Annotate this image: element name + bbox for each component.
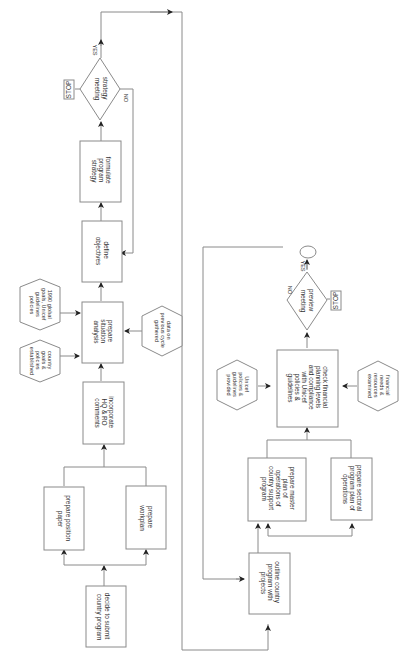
strategy-meeting-line-1: strategy xyxy=(101,77,109,101)
node-country-goals: country goals & policies established xyxy=(20,340,60,382)
preview-no-label: NO xyxy=(287,286,293,295)
objectives-line-1: define xyxy=(103,241,110,259)
situation-line-2: situation xyxy=(100,319,107,343)
node-preview-meeting: preview meeting YES NO STOP xyxy=(287,260,341,330)
master-plan-line-5: program xyxy=(260,477,268,501)
strategy-meeting-line-2: meeting xyxy=(93,78,101,101)
svg-text:prepare workplan: prepare workplan xyxy=(138,504,154,531)
situation-line-3: analysis xyxy=(92,320,100,343)
position-paper-line-2: paper xyxy=(56,511,64,528)
outline-line-3: projects xyxy=(259,572,267,594)
strategy-stop-label: STOP xyxy=(65,80,72,98)
check-line-4: with Unicef xyxy=(301,370,308,402)
svg-text:preview meeting: preview meeting xyxy=(299,289,315,313)
node-financial-needs: financial needs & resources examined xyxy=(358,361,398,411)
node-check-financial: check financial planning levels and comp… xyxy=(277,350,338,427)
node-global-goals: 1990 global goals, Unicef guidelines pol… xyxy=(20,279,60,330)
flowchart: decide to submit country program prepare… xyxy=(0,0,409,661)
position-paper-line-1: prepare position xyxy=(64,495,72,541)
svg-text:prepare situation: prepare situation analysis xyxy=(92,319,114,345)
node-sectoral-plan: prepare sectoral program plan of operati… xyxy=(331,458,372,520)
strategy-line-1: formulate xyxy=(105,157,112,184)
strategy-no-label: NO xyxy=(123,94,129,103)
workplan-line-2: workplan xyxy=(138,504,146,531)
objectives-line-2: objectives xyxy=(94,237,102,265)
node-program-strategy: formulate program strategy xyxy=(80,141,121,202)
strategy-line-3: strategy xyxy=(90,160,98,184)
preview-stop-label: STOP xyxy=(332,291,339,309)
node-master-plan: prepare master plan of operations of cou… xyxy=(248,458,306,521)
svg-text:decide to submit country: decide to submit country program xyxy=(95,593,111,641)
check-line-6: guidelines xyxy=(286,374,294,403)
preview-line-2: meeting xyxy=(299,290,307,313)
end-terminator xyxy=(300,246,316,258)
decide-line-2: country program xyxy=(95,594,103,641)
decide-line-1: decide to submit xyxy=(104,593,111,640)
node-workplan: prepare workplan xyxy=(126,486,166,549)
incorporate-line-3: comments xyxy=(94,398,101,427)
global-goals-line-4: policies xyxy=(29,296,35,315)
node-incorporate: incorporate HQ & RO comments xyxy=(83,382,124,444)
node-strategy-meeting: strategy meeting YES NO STOP xyxy=(64,44,129,120)
node-position-paper: prepare position paper xyxy=(44,487,84,550)
preview-yes-label: YES xyxy=(300,260,306,271)
strategy-yes-label: YES xyxy=(92,44,98,55)
svg-text:financial needs &: financial needs & resources examined xyxy=(367,373,391,399)
unicef-policies-line-4: provided xyxy=(226,374,232,395)
svg-text:strategy meeting: strategy meeting xyxy=(93,77,109,102)
node-outline-program: outline country program with projects xyxy=(249,553,290,614)
check-line-1: check financial xyxy=(322,366,329,408)
workplan-line-1: prepare xyxy=(146,506,154,528)
node-unicef-policies: Unicef policies & guidelines provided xyxy=(217,360,257,410)
svg-text:country goals & po: country goals & policies established xyxy=(29,347,53,375)
node-situation-analysis: prepare situation analysis xyxy=(82,302,123,363)
node-previous-data: data on previous cycle gathered xyxy=(142,306,182,356)
preview-line-1: preview xyxy=(307,289,315,311)
svg-text:formulate program: formulate program strategy xyxy=(90,157,112,185)
svg-text:incorporate HQ & RO: incorporate HQ & RO comments xyxy=(94,396,115,430)
previous-data-line-3: gathered xyxy=(154,320,160,342)
sectoral-line-3: operations xyxy=(341,474,349,504)
node-define-objectives: define objectives xyxy=(82,221,122,282)
financial-needs-line-4: examined xyxy=(367,374,373,398)
country-goals-line-4: established xyxy=(29,347,35,375)
node-decide: decide to submit country program xyxy=(86,586,126,647)
